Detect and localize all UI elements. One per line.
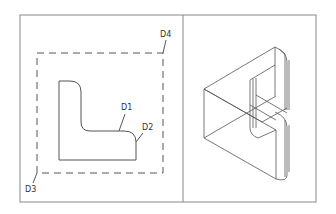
2d-profile-view: D1 D2 D3 D4 — [25, 30, 171, 194]
label-d4: D4 — [160, 30, 171, 39]
leader-d4 — [163, 40, 166, 53]
label-d1: D1 — [121, 103, 132, 112]
l-profile-shape — [59, 81, 136, 160]
leader-d2 — [136, 133, 143, 142]
label-d2: D2 — [142, 123, 153, 132]
label-d3: D3 — [25, 185, 36, 194]
3d-isometric-view — [204, 47, 289, 180]
leader-d3 — [33, 173, 37, 183]
leader-d1 — [119, 114, 125, 131]
drawing-canvas: D1 D2 D3 D4 — [0, 0, 336, 214]
outer-frame — [20, 15, 316, 202]
dashed-boundary — [37, 53, 163, 173]
